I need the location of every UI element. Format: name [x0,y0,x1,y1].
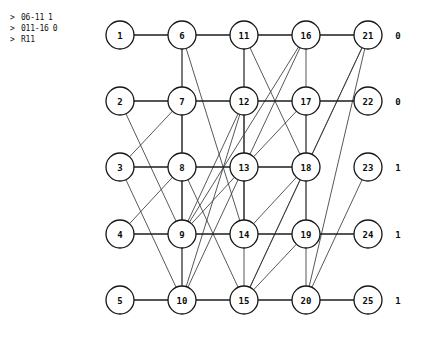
graph-node[interactable]: 4 [106,220,134,248]
graph-node-label: 23 [363,163,374,173]
graph-node[interactable]: 25 [354,286,382,314]
graph-node[interactable]: 24 [354,220,382,248]
graph-node[interactable]: 22 [354,87,382,115]
graph-cross-edge [130,111,173,157]
graph-node-label: 24 [363,230,374,240]
graph-node[interactable]: 20 [292,286,320,314]
row-state-label: 1 [395,230,400,240]
graph-node-label: 9 [179,230,184,240]
graph-node-label: 11 [239,31,250,41]
graph-node[interactable]: 14 [230,220,258,248]
graph-node-label: 8 [179,163,184,173]
graph-node[interactable]: 12 [230,87,258,115]
graph-node-label: 19 [301,230,312,240]
graph-node[interactable]: 13 [230,153,258,181]
graph-node[interactable]: 16 [292,21,320,49]
graph-node[interactable]: 7 [168,87,196,115]
row-state-label: 1 [395,163,400,173]
graph-node-label: 18 [301,163,312,173]
graph-node[interactable]: 2 [106,87,134,115]
row-state-label: 0 [395,97,400,107]
graph-node-label: 6 [179,31,184,41]
graph-node-label: 1 [117,31,122,41]
graph-cross-edge [186,48,240,220]
graph-node[interactable]: 1 [106,21,134,49]
graph-node-label: 2 [117,97,122,107]
graph-node-label: 15 [239,296,250,306]
graph-canvas: 1234567891011121314151617181920212223242… [0,0,426,337]
graph-node-label: 3 [117,163,122,173]
graph-node[interactable]: 15 [230,286,258,314]
graph-node[interactable]: 11 [230,21,258,49]
graph-node[interactable]: 6 [168,21,196,49]
graph-node[interactable]: 21 [354,21,382,49]
graph-node-label: 13 [239,163,250,173]
graph-node[interactable]: 17 [292,87,320,115]
graph-node-label: 5 [117,296,122,306]
graph-node-label: 17 [301,97,312,107]
graph-node[interactable]: 23 [354,153,382,181]
graph-node[interactable]: 10 [168,286,196,314]
graph-node[interactable]: 8 [168,153,196,181]
graph-node[interactable]: 19 [292,220,320,248]
graph-node-label: 22 [363,97,374,107]
graph-node-label: 7 [179,97,184,107]
row-label-layer: 00111 [395,31,400,306]
graph-node[interactable]: 3 [106,153,134,181]
graph-node-label: 10 [177,296,188,306]
row-state-label: 1 [395,296,400,306]
graph-node[interactable]: 5 [106,286,134,314]
graph-node-label: 12 [239,97,250,107]
graph-cross-edge [254,111,297,157]
graph-node-label: 16 [301,31,312,41]
graph-node-label: 21 [363,31,374,41]
graph-node-label: 25 [363,296,374,306]
graph-node-label: 4 [117,230,123,240]
graph-node-label: 20 [301,296,312,306]
screenshot-root: >06-111>011-160>R11 12345678910111213141… [0,0,426,337]
graph-node[interactable]: 18 [292,153,320,181]
graph-node-label: 14 [239,230,250,240]
row-state-label: 0 [395,31,400,41]
graph-node[interactable]: 9 [168,220,196,248]
graph-cross-edge [254,244,297,290]
